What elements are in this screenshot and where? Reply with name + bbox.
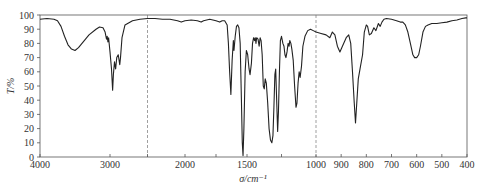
spectrum-line <box>40 18 467 156</box>
x-axis: 40003000200015001000900800700600500400 <box>30 154 475 170</box>
y-axis-title: T/% <box>5 78 16 95</box>
x-tick-label: 800 <box>359 159 374 170</box>
y-axis: 0102030405060708090100 <box>19 10 40 163</box>
y-tick-label: 30 <box>24 109 34 120</box>
y-tick-label: 20 <box>24 123 34 134</box>
y-tick-label: 60 <box>24 66 34 77</box>
x-tick-label: 1500 <box>237 159 257 170</box>
y-tick-label: 70 <box>24 52 34 63</box>
x-tick-label: 700 <box>384 159 399 170</box>
x-tick-label: 400 <box>460 159 475 170</box>
y-tick-label: 40 <box>24 95 34 106</box>
x-axis-title: σ/cm⁻¹ <box>239 173 267 184</box>
spectrum-series <box>40 18 467 156</box>
y-tick-label: 80 <box>24 38 34 49</box>
plot-frame <box>40 15 467 157</box>
ir-spectrum-chart: 0102030405060708090100 40003000200015001… <box>0 0 486 187</box>
x-tick-label: 4000 <box>30 159 50 170</box>
x-tick-label: 2000 <box>175 159 195 170</box>
x-tick-label: 3000 <box>100 159 120 170</box>
plot-border <box>40 15 467 157</box>
y-tick-label: 50 <box>24 81 34 92</box>
y-tick-label: 90 <box>24 24 34 35</box>
dashed-reference-lines <box>148 15 317 157</box>
x-tick-label: 1000 <box>306 159 326 170</box>
y-tick-label: 10 <box>24 137 34 148</box>
y-tick-label: 100 <box>19 10 34 21</box>
x-tick-label: 500 <box>434 159 449 170</box>
x-tick-label: 600 <box>409 159 424 170</box>
x-tick-label: 900 <box>334 159 349 170</box>
